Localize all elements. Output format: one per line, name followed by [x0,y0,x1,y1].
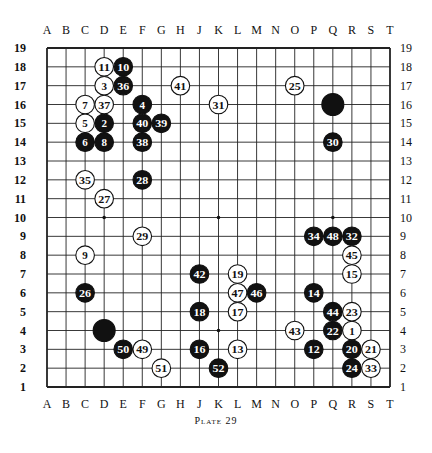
row-label: 9 [20,229,26,243]
move-number: 31 [213,100,225,111]
column-label: T [386,397,394,411]
black-stone: 40 [133,114,152,133]
black-stone: 26 [76,284,95,303]
column-label: Q [328,23,337,37]
column-label: L [234,397,241,411]
row-label: 14 [400,135,412,149]
move-number: 32 [346,231,358,242]
row-label: 17 [400,79,412,93]
white-stone: 15 [343,265,362,284]
black-stone: 14 [304,284,323,303]
row-label: 11 [15,192,26,206]
white-stone: 7 [76,95,95,114]
column-label: R [348,23,356,37]
column-label: L [234,23,241,37]
move-number: 45 [346,250,358,261]
white-stone: 13 [228,340,247,359]
row-label: 9 [400,229,406,243]
column-label: R [348,397,356,411]
move-number: 40 [136,118,148,129]
move-number: 8 [101,136,107,148]
go-board: AABBCCDDEEFFGGHHJJKKLLMMNNOOPPQQRRSSTT19… [0,0,432,453]
row-label: 13 [14,154,26,168]
black-stone: 10 [114,58,133,77]
column-label: F [139,397,146,411]
column-label: G [157,397,166,411]
black-stone-disc [322,94,344,116]
black-stone: 22 [324,321,343,340]
column-label: K [214,23,223,37]
white-stone: 17 [228,302,247,321]
column-label: E [120,397,127,411]
column-label: N [271,397,280,411]
white-stone: 33 [362,359,381,378]
move-number: 41 [174,81,186,92]
white-stone: 35 [76,171,95,190]
row-label: 1 [20,380,26,394]
row-label: 4 [20,324,26,338]
column-label: G [157,23,166,37]
white-stone: 31 [209,95,228,114]
black-stone [322,94,344,116]
row-label: 17 [14,79,26,93]
move-number: 27 [98,194,110,205]
row-label: 8 [20,248,26,262]
move-number: 28 [136,175,148,186]
black-stone: 46 [247,284,266,303]
row-label: 19 [14,41,26,55]
black-stone [93,320,115,342]
move-number: 2 [101,117,107,129]
move-number: 3 [101,80,107,92]
move-number: 49 [136,344,148,355]
row-label: 6 [400,286,406,300]
move-number: 38 [136,137,148,148]
row-label: 3 [400,342,406,356]
move-number: 44 [327,307,340,318]
move-number: 4 [140,99,146,111]
row-label: 7 [400,267,406,281]
move-number: 20 [346,344,358,355]
row-label: 15 [400,116,412,130]
white-stone: 49 [133,340,152,359]
row-label: 2 [20,361,26,375]
black-stone-disc [93,320,115,342]
column-label: P [310,397,317,411]
column-label: C [81,397,89,411]
black-stone: 20 [343,340,362,359]
row-label: 15 [14,116,26,130]
move-number: 42 [193,269,205,280]
move-number: 51 [155,363,167,374]
black-stone: 28 [133,171,152,190]
white-stone: 45 [343,246,362,265]
move-number: 12 [308,344,320,355]
move-number: 23 [346,307,358,318]
move-number: 39 [155,118,167,129]
row-label: 10 [14,211,26,225]
column-label: K [214,397,223,411]
column-label: A [43,23,52,37]
black-stone: 52 [209,359,228,378]
black-stone: 16 [190,340,209,359]
move-number: 29 [136,231,148,242]
white-stone: 29 [133,227,152,246]
row-label: 12 [400,173,412,187]
move-number: 17 [232,307,244,318]
row-label: 18 [14,60,26,74]
move-number: 15 [346,269,358,280]
move-number: 26 [79,288,91,299]
white-stone: 19 [228,265,247,284]
row-label: 7 [20,267,26,281]
move-number: 25 [289,81,301,92]
move-number: 11 [98,62,110,73]
move-number: 18 [193,307,205,318]
row-label: 10 [400,211,412,225]
row-label: 14 [14,135,26,149]
white-stone: 11 [95,58,114,77]
row-label: 5 [400,305,406,319]
column-label: C [81,23,89,37]
row-label: 16 [400,98,412,112]
column-label: B [62,23,70,37]
move-number: 7 [82,99,88,111]
black-stone: 30 [324,133,343,152]
black-stone: 6 [76,133,95,152]
